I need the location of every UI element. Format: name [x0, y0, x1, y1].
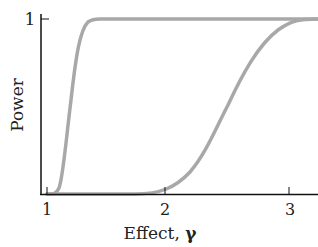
y-axis-label: Power: [7, 77, 27, 132]
y-tick-label-1: 1: [25, 9, 36, 29]
x-tick-label-3: 3: [285, 200, 295, 219]
steep-power-curve: [47, 19, 318, 194]
x-axis-label: Effect, γ: [124, 223, 198, 243]
gamma-symbol: γ: [185, 223, 197, 243]
power-chart: 1 1 2 3 Effect, γ Power: [0, 0, 318, 247]
x-axis-label-text: Effect,: [124, 223, 186, 243]
shallow-power-curve: [47, 19, 318, 194]
x-tick-label-2: 2: [160, 200, 170, 219]
x-tick-label-1: 1: [42, 200, 52, 219]
